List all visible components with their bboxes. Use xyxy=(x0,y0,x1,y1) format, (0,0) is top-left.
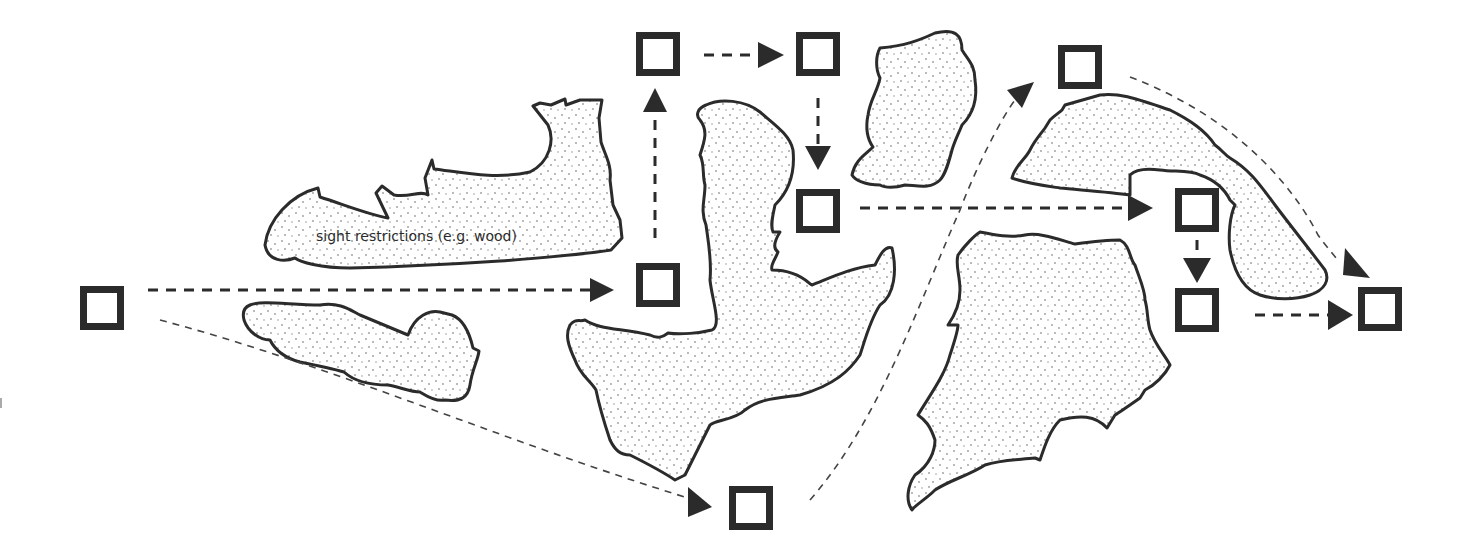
obstacle-blob-upper-middle xyxy=(852,31,976,187)
position-node-1 xyxy=(80,286,124,330)
arrowhead-up-icon xyxy=(643,88,667,112)
arrowhead-up-right-icon xyxy=(1007,82,1034,108)
arrowhead-right-icon xyxy=(758,42,784,68)
arrowhead-down-icon xyxy=(805,146,831,170)
diagram-canvas: sight restrictions (e.g. wood) xyxy=(0,0,1471,555)
obstacle-label: sight restrictions (e.g. wood) xyxy=(316,228,517,244)
arrowhead-right-icon xyxy=(1128,195,1153,221)
position-node-4 xyxy=(796,32,840,76)
position-node-3 xyxy=(636,32,680,76)
position-node-7 xyxy=(1058,45,1102,89)
arrowhead-down-icon xyxy=(1183,258,1211,283)
obstacle-central-l xyxy=(568,101,895,480)
position-node-9 xyxy=(1175,288,1219,332)
position-node-8 xyxy=(1175,188,1219,232)
arrowhead-right-icon xyxy=(688,487,712,517)
position-node-5 xyxy=(796,189,840,233)
arrowhead-down-left-icon xyxy=(1343,248,1370,278)
position-node-6 xyxy=(729,486,773,530)
arrowhead-right-icon xyxy=(1328,300,1353,330)
scan-artifact xyxy=(0,398,2,408)
position-node-2 xyxy=(636,263,680,307)
obstacle-lower-right xyxy=(908,232,1170,510)
obstacle-cloud-left xyxy=(243,303,479,401)
position-node-10 xyxy=(1358,287,1402,331)
diagram-svg xyxy=(0,0,1471,555)
arrowhead-right-icon xyxy=(590,278,614,302)
